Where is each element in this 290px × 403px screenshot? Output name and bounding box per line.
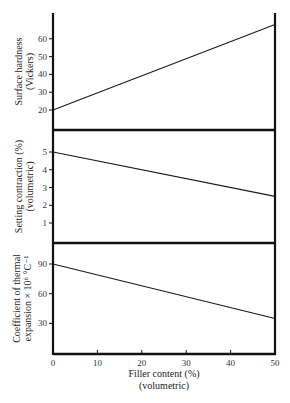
y-tick-label: 4 <box>43 165 48 175</box>
y-axis-title-top: Surface hardness(Vickers) <box>13 37 36 105</box>
series-line-middle <box>53 152 275 196</box>
y-tick-label: 60 <box>38 34 48 44</box>
y-tick-label: 30 <box>38 318 48 328</box>
y-tick-label: 90 <box>38 259 48 269</box>
y-axis-title-bottom: Coefficient of thermalexpansion × 10⁶ °C… <box>11 254 33 343</box>
y-tick-label: 1 <box>43 218 48 228</box>
x-axis: 01020304050 <box>51 350 280 368</box>
y-tick-label: 5 <box>43 147 48 157</box>
x-tick-label: 50 <box>271 358 281 368</box>
y-tick-label: 50 <box>38 52 48 62</box>
series-line-bottom <box>53 264 275 318</box>
y-axis-title-middle: Setting contraction (%)(volumetric) <box>13 140 36 233</box>
y-tick-label: 2 <box>43 200 48 210</box>
y-tick-label: 60 <box>38 289 48 299</box>
chart-panels: 2030405060Surface hardness(Vickers)12345… <box>11 25 275 343</box>
y-tick-label: 20 <box>38 105 48 115</box>
x-axis-subtitle: (volumetric) <box>139 380 189 392</box>
x-tick-label: 20 <box>137 358 147 368</box>
y-tick-label: 40 <box>38 69 48 79</box>
x-tick-label: 0 <box>51 358 56 368</box>
x-axis-title: Filler content (%) <box>128 368 199 380</box>
y-tick-label: 30 <box>38 87 48 97</box>
x-tick-label: 30 <box>182 358 192 368</box>
y-tick-label: 3 <box>43 183 48 193</box>
chart-figure: 2030405060Surface hardness(Vickers)12345… <box>0 0 290 403</box>
x-tick-label: 10 <box>93 358 103 368</box>
series-line-top <box>53 25 275 110</box>
x-tick-label: 40 <box>226 358 236 368</box>
panel-bottom: 306090Coefficient of thermalexpansion × … <box>11 254 275 343</box>
chart-frame <box>53 13 276 355</box>
